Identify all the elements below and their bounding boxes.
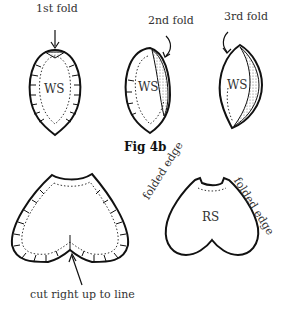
label-ws-3: WS	[227, 78, 248, 92]
label-cut-line: cut right up to line	[30, 288, 135, 301]
label-ws-2: WS	[138, 80, 159, 94]
label-3rd-fold: 3rd fold	[224, 10, 268, 23]
shape-heart-ws	[12, 174, 128, 285]
caption-fig-4b: Fig 4b	[124, 140, 166, 154]
label-ws-1: WS	[44, 82, 65, 96]
label-2nd-fold: 2nd fold	[148, 14, 194, 27]
diagram-canvas	[0, 0, 288, 320]
label-rs: RS	[202, 210, 219, 224]
label-1st-fold: 1st fold	[36, 2, 78, 15]
